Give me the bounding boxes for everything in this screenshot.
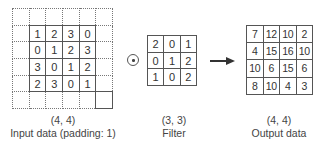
grid-row: 2301 bbox=[13, 75, 113, 92]
padding-cell bbox=[96, 59, 113, 76]
padding-cell bbox=[13, 9, 30, 26]
input-shape-label: (4, 4) bbox=[51, 114, 76, 126]
padding-cell bbox=[13, 42, 30, 59]
grid-cell: 2 bbox=[79, 59, 96, 76]
grid-row bbox=[13, 9, 113, 26]
grid-cell: 2 bbox=[148, 36, 164, 53]
grid-cell: 7 bbox=[247, 26, 264, 43]
grid-cell: 10 bbox=[263, 77, 280, 94]
grid-cell: 0 bbox=[148, 52, 164, 69]
input-caption: Input data (padding: 1) bbox=[10, 127, 116, 139]
padding-cell bbox=[29, 92, 46, 109]
grid-cell: 3 bbox=[29, 59, 46, 76]
grid-cell: 4 bbox=[247, 43, 264, 60]
grid-cell: 8 bbox=[247, 77, 264, 94]
grid-row: 102 bbox=[148, 69, 197, 86]
grid-cell: 1 bbox=[46, 42, 63, 59]
padding-cell bbox=[63, 92, 80, 109]
grid-cell: 2 bbox=[63, 42, 80, 59]
padding-cell bbox=[96, 25, 113, 42]
input-data-grid: 1230012330122301 bbox=[12, 8, 113, 109]
circled-dot-operator-icon bbox=[127, 54, 139, 66]
filter-shape-label: (3, 3) bbox=[162, 114, 187, 126]
grid-cell: 1 bbox=[180, 36, 196, 53]
operator-dot bbox=[132, 59, 135, 62]
grid-row: 201 bbox=[148, 36, 197, 53]
grid-cell: 16 bbox=[280, 43, 297, 60]
grid-row: 1230 bbox=[13, 25, 113, 42]
grid-row: 81043 bbox=[247, 77, 313, 94]
padding-cell bbox=[63, 9, 80, 26]
padding-cell bbox=[13, 92, 30, 109]
grid-row: 3012 bbox=[13, 59, 113, 76]
grid-cell: 2 bbox=[180, 69, 196, 86]
grid-cell: 1 bbox=[79, 75, 96, 92]
grid-row: 012 bbox=[148, 52, 197, 69]
filter-caption: Filter bbox=[162, 127, 185, 139]
grid-cell: 10 bbox=[296, 43, 313, 60]
grid-cell: 15 bbox=[263, 43, 280, 60]
grid-cell: 1 bbox=[29, 25, 46, 42]
output-data-grid: 712102415161010615681043 bbox=[246, 25, 313, 95]
grid-cell: 0 bbox=[164, 69, 180, 86]
grid-cell: 0 bbox=[46, 59, 63, 76]
grid-cell: 1 bbox=[63, 59, 80, 76]
output-caption: Output data bbox=[252, 127, 307, 139]
padding-cell bbox=[96, 92, 113, 109]
output-grid-body: 712102415161010615681043 bbox=[247, 26, 313, 95]
grid-cell: 0 bbox=[79, 25, 96, 42]
grid-cell: 12 bbox=[263, 26, 280, 43]
grid-row: 106156 bbox=[247, 60, 313, 77]
output-shape-label: (4, 4) bbox=[267, 114, 292, 126]
grid-cell: 3 bbox=[296, 77, 313, 94]
grid-row: 0123 bbox=[13, 42, 113, 59]
grid-row: 712102 bbox=[247, 26, 313, 43]
grid-cell: 0 bbox=[63, 75, 80, 92]
grid-row bbox=[13, 92, 113, 109]
grid-row: 4151610 bbox=[247, 43, 313, 60]
grid-cell: 1 bbox=[148, 69, 164, 86]
grid-cell: 2 bbox=[29, 75, 46, 92]
filter-grid-body: 201012102 bbox=[148, 36, 197, 86]
grid-cell: 4 bbox=[280, 77, 297, 94]
padding-cell bbox=[79, 9, 96, 26]
grid-cell: 10 bbox=[280, 26, 297, 43]
grid-cell: 6 bbox=[263, 60, 280, 77]
grid-cell: 10 bbox=[247, 60, 264, 77]
grid-cell: 0 bbox=[164, 36, 180, 53]
filter-grid: 201012102 bbox=[147, 35, 197, 86]
grid-cell: 2 bbox=[46, 25, 63, 42]
arrow-head bbox=[226, 57, 235, 65]
right-arrow-icon bbox=[210, 60, 236, 62]
input-grid-body: 1230012330122301 bbox=[13, 9, 113, 109]
padding-cell bbox=[13, 59, 30, 76]
grid-cell: 3 bbox=[46, 75, 63, 92]
grid-cell: 2 bbox=[180, 52, 196, 69]
grid-cell: 6 bbox=[296, 60, 313, 77]
padding-cell bbox=[46, 9, 63, 26]
padding-cell bbox=[96, 9, 113, 26]
padding-cell bbox=[46, 92, 63, 109]
grid-cell: 0 bbox=[29, 42, 46, 59]
padding-cell bbox=[96, 75, 113, 92]
padding-cell bbox=[29, 9, 46, 26]
padding-cell bbox=[96, 42, 113, 59]
grid-cell: 3 bbox=[79, 42, 96, 59]
grid-cell: 3 bbox=[63, 25, 80, 42]
grid-cell: 15 bbox=[280, 60, 297, 77]
padding-cell bbox=[79, 92, 96, 109]
padding-cell bbox=[13, 25, 30, 42]
padding-cell bbox=[13, 75, 30, 92]
grid-cell: 1 bbox=[164, 52, 180, 69]
grid-cell: 2 bbox=[296, 26, 313, 43]
